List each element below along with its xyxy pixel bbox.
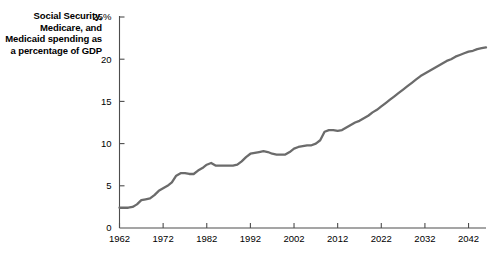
y-axis-tick-label: 5 xyxy=(106,180,111,191)
y-axis-tick-label: 10 xyxy=(101,138,112,149)
x-axis-tick-label: 1962 xyxy=(109,233,130,244)
line-chart-plot: 0510152025% 1962197219821992200220122022… xyxy=(0,0,494,257)
x-axis-tick-label: 2032 xyxy=(414,233,435,244)
x-axis-tick-label: 2042 xyxy=(458,233,479,244)
y-axis-tick-label: 25% xyxy=(92,11,112,22)
chart-figure: Social Security, Medicare, and Medicaid … xyxy=(0,0,494,257)
x-axis-tick-label: 2012 xyxy=(327,233,348,244)
x-axis-tick-label: 1982 xyxy=(196,233,217,244)
x-axis-tick-label: 2002 xyxy=(283,233,304,244)
y-axis: 0510152025% xyxy=(92,11,124,233)
y-axis-tick-label: 20 xyxy=(101,54,112,65)
y-axis-tick-label: 15 xyxy=(101,96,112,107)
spending-line xyxy=(120,47,487,207)
x-axis-tick-label: 1972 xyxy=(153,233,174,244)
x-axis-tick-label: 1992 xyxy=(240,233,261,244)
x-axis-tick-label: 2022 xyxy=(371,233,392,244)
data-series-spending xyxy=(120,47,487,207)
x-axis: 196219721982199220022012202220322042 xyxy=(109,223,486,244)
y-axis-tick-label: 0 xyxy=(106,222,111,233)
